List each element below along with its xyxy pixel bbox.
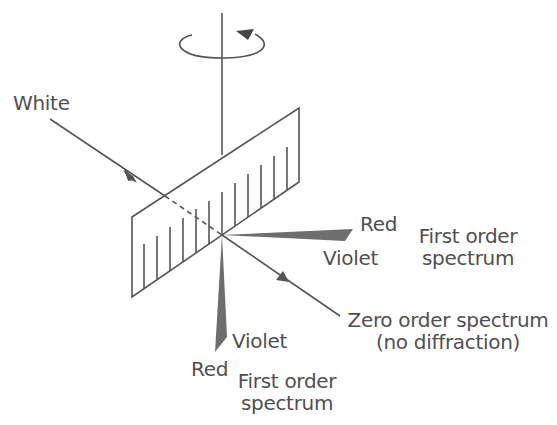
vertical-order-label: First order spectrum <box>232 370 342 414</box>
horizontal-order-label: First order spectrum <box>413 225 523 269</box>
rotation-arrowhead-icon <box>236 29 254 40</box>
vertical-violet-label: Violet <box>232 330 287 352</box>
incident-ray <box>50 119 165 196</box>
grating-rulings <box>144 147 287 289</box>
horizontal-red-label: Red <box>360 213 397 235</box>
zero-order-line1: Zero order spectrum <box>343 309 553 331</box>
zero-order-label: Zero order spectrum (no diffraction) <box>343 309 553 353</box>
vertical-order-line2: spectrum <box>232 392 342 414</box>
horizontal-spectrum-wedge <box>222 229 353 241</box>
horizontal-violet-label: Violet <box>323 247 378 269</box>
incident-label: White <box>13 92 70 114</box>
vertical-spectrum-wedge <box>215 235 227 352</box>
horizontal-order-line2: spectrum <box>413 247 523 269</box>
vertical-red-label: Red <box>191 358 228 380</box>
incident-ray-hidden <box>165 196 222 235</box>
zero-order-line2: (no diffraction) <box>343 331 553 353</box>
vertical-order-line1: First order <box>232 370 342 392</box>
diagram-canvas <box>0 0 557 425</box>
horizontal-order-line1: First order <box>413 225 523 247</box>
